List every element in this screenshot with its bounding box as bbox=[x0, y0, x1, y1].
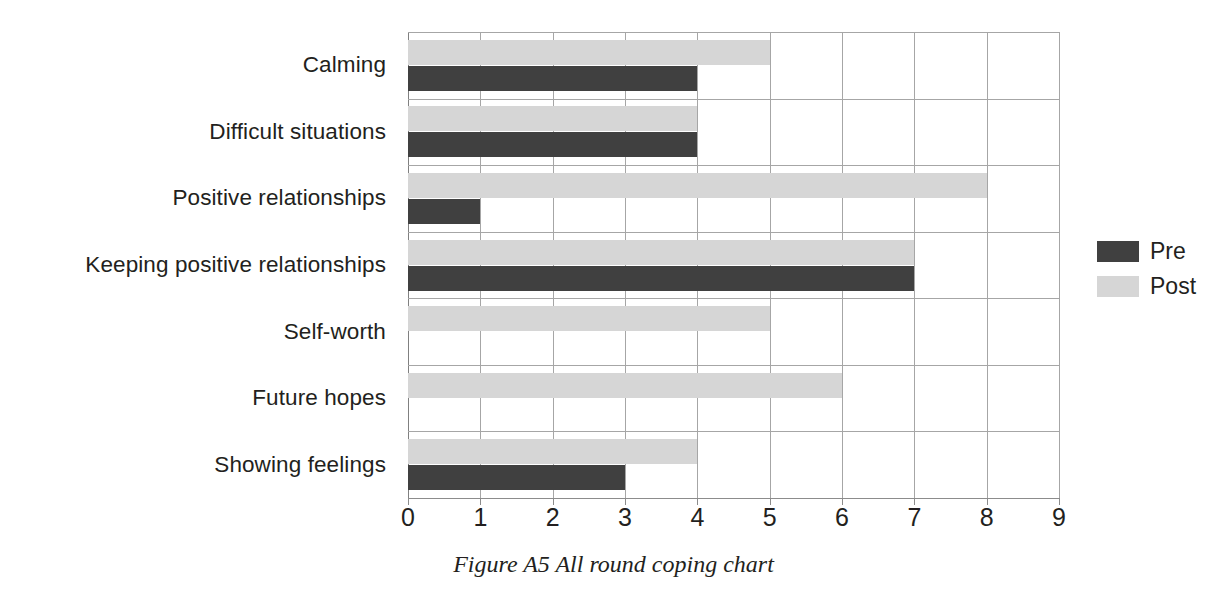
x-axis-tick-label: 8 bbox=[967, 505, 1007, 530]
bar-post bbox=[408, 40, 770, 65]
x-axis-tick-label: 3 bbox=[605, 505, 645, 530]
gridline-horizontal bbox=[408, 431, 1059, 432]
bar-pre bbox=[408, 465, 625, 490]
x-axis-tick-label: 1 bbox=[460, 505, 500, 530]
x-axis-line bbox=[408, 498, 1059, 499]
gridline-horizontal bbox=[408, 232, 1059, 233]
category-label: Showing feelings bbox=[0, 454, 386, 477]
bar-pre bbox=[408, 66, 697, 91]
gridline-horizontal bbox=[408, 298, 1059, 299]
gridline-horizontal bbox=[408, 365, 1059, 366]
bar-post bbox=[408, 106, 697, 131]
bar-pre bbox=[408, 266, 914, 291]
category-label: Self-worth bbox=[0, 321, 386, 344]
gridline-vertical bbox=[914, 32, 915, 498]
x-axis-tick-label: 2 bbox=[533, 505, 573, 530]
legend-label: Post bbox=[1150, 275, 1196, 298]
category-label: Positive relationships bbox=[0, 187, 386, 210]
bar-post bbox=[408, 240, 914, 265]
gridline-horizontal bbox=[408, 165, 1059, 166]
bar-post bbox=[408, 439, 697, 464]
plot-area bbox=[408, 32, 1059, 498]
category-label: Calming bbox=[0, 54, 386, 77]
x-axis-tick-label: 4 bbox=[677, 505, 717, 530]
x-axis-tick-label: 5 bbox=[750, 505, 790, 530]
figure-all-round-coping-chart: CalmingDifficult situationsPositive rela… bbox=[0, 0, 1227, 601]
bar-pre bbox=[408, 132, 697, 157]
x-axis-tick-label: 9 bbox=[1039, 505, 1079, 530]
legend-swatch-pre-icon bbox=[1097, 241, 1139, 262]
gridline-vertical bbox=[1059, 32, 1060, 498]
bar-pre bbox=[408, 199, 480, 224]
gridline-horizontal bbox=[408, 99, 1059, 100]
category-axis-labels: CalmingDifficult situationsPositive rela… bbox=[0, 32, 398, 498]
legend-item: Pre bbox=[1097, 238, 1186, 264]
legend-item: Post bbox=[1097, 273, 1196, 299]
category-label: Future hopes bbox=[0, 387, 386, 410]
legend-label: Pre bbox=[1150, 240, 1186, 263]
bar-post bbox=[408, 173, 987, 198]
legend-swatch-post-icon bbox=[1097, 276, 1139, 297]
x-axis-tick-label: 6 bbox=[822, 505, 862, 530]
gridline-vertical bbox=[987, 32, 988, 498]
category-label: Difficult situations bbox=[0, 121, 386, 144]
gridline-horizontal bbox=[408, 32, 1059, 33]
category-label: Keeping positive relationships bbox=[0, 254, 386, 277]
figure-caption: Figure A5 All round coping chart bbox=[0, 551, 1227, 578]
x-axis-tick-label: 7 bbox=[894, 505, 934, 530]
x-axis-tick-label: 0 bbox=[388, 505, 428, 530]
bar-post bbox=[408, 306, 770, 331]
bar-post bbox=[408, 373, 842, 398]
